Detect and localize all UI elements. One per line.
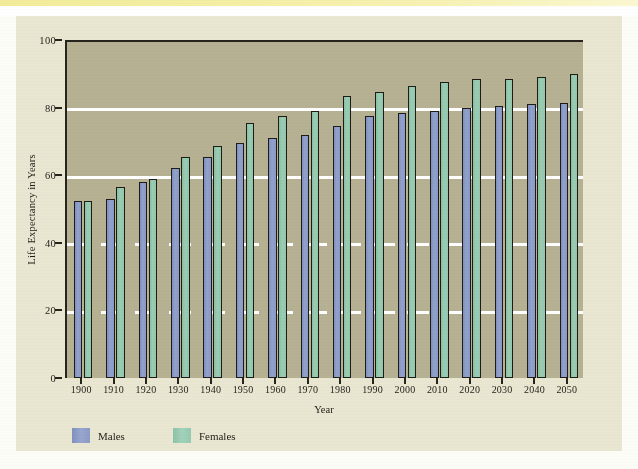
x-tick-label-1900: 1900 — [71, 384, 92, 395]
bar-females-1920 — [149, 179, 158, 378]
bar-group — [268, 42, 287, 378]
bar-females-1930 — [181, 157, 190, 378]
bar-females-1960 — [278, 116, 287, 378]
y-tick-mark-80 — [55, 107, 62, 109]
x-tick-label-2010: 2010 — [427, 384, 448, 395]
legend-label-females: Females — [199, 430, 236, 442]
bar-males-2050 — [560, 103, 569, 378]
bar-males-1940 — [203, 157, 212, 378]
bar-males-1900 — [74, 201, 83, 378]
bar-males-2000 — [398, 113, 407, 378]
x-tick-label-1980: 1980 — [330, 384, 351, 395]
bar-group — [301, 42, 320, 378]
bar-group — [430, 42, 449, 378]
bar-females-2020 — [472, 79, 481, 378]
legend: Males Females — [72, 428, 236, 443]
figure-root: Life Expectancy in Years 020406080100 19… — [0, 0, 638, 469]
x-tick-label-1910: 1910 — [103, 384, 124, 395]
x-tick-label-1990: 1990 — [362, 384, 383, 395]
bar-groups — [67, 42, 583, 378]
x-tick-label-2040: 2040 — [524, 384, 545, 395]
x-axis-tick-labels: 1900191019201930194019501960197019801990… — [65, 384, 583, 400]
x-tick-label-1930: 1930 — [168, 384, 189, 395]
y-tick-mark-20 — [55, 309, 62, 311]
bar-females-2050 — [570, 74, 579, 378]
y-tick-mark-40 — [55, 242, 62, 244]
bar-group — [236, 42, 255, 378]
bar-males-1920 — [139, 182, 148, 378]
x-tick-label-2030: 2030 — [492, 384, 513, 395]
x-tick-label-1920: 1920 — [136, 384, 157, 395]
bar-females-2040 — [537, 77, 546, 378]
x-tick-label-2050: 2050 — [556, 384, 577, 395]
bar-males-2010 — [430, 111, 439, 378]
bar-group — [527, 42, 546, 378]
bar-females-2010 — [440, 82, 449, 378]
bar-females-1910 — [116, 187, 125, 378]
x-tick-label-1970: 1970 — [297, 384, 318, 395]
x-tick-label-1950: 1950 — [233, 384, 254, 395]
bar-group — [462, 42, 481, 378]
y-tick-mark-0 — [55, 377, 62, 379]
bar-males-2030 — [495, 106, 504, 378]
y-tick-mark-60 — [55, 174, 62, 176]
bar-group — [333, 42, 352, 378]
bar-females-2000 — [408, 86, 417, 378]
bar-females-1970 — [311, 111, 320, 378]
bar-males-1990 — [365, 116, 374, 378]
bar-group — [139, 42, 158, 378]
bar-females-1940 — [213, 146, 222, 378]
bar-group — [495, 42, 514, 378]
bar-males-2020 — [462, 108, 471, 378]
legend-item-females: Females — [173, 428, 236, 443]
plot-frame — [65, 40, 583, 378]
bar-males-1970 — [301, 135, 310, 378]
plot-area — [67, 42, 583, 378]
bar-group — [171, 42, 190, 378]
legend-item-males: Males — [72, 428, 125, 443]
x-tick-label-1940: 1940 — [200, 384, 221, 395]
bar-males-1980 — [333, 126, 342, 378]
page-white-margin — [0, 6, 638, 16]
y-tick-label-100: 100 — [39, 35, 56, 46]
x-tick-label-2000: 2000 — [395, 384, 416, 395]
legend-swatch-females-icon — [173, 428, 191, 443]
x-tick-label-2020: 2020 — [459, 384, 480, 395]
bar-females-1980 — [343, 96, 352, 378]
bar-females-1990 — [375, 92, 384, 378]
bar-females-2030 — [505, 79, 514, 378]
legend-label-males: Males — [98, 430, 125, 442]
bar-group — [560, 42, 579, 378]
bar-group — [203, 42, 222, 378]
x-axis-title: Year — [65, 404, 583, 415]
bar-females-1900 — [84, 201, 93, 378]
y-axis-tick-labels: 020406080100 — [0, 40, 62, 378]
bar-males-1910 — [106, 199, 115, 378]
y-tick-mark-100 — [55, 39, 62, 41]
bar-group — [398, 42, 417, 378]
x-tick-label-1960: 1960 — [265, 384, 286, 395]
bar-males-1950 — [236, 143, 245, 378]
legend-swatch-males-icon — [72, 428, 90, 443]
bar-males-1960 — [268, 138, 277, 378]
bar-females-1950 — [246, 123, 255, 378]
bar-group — [74, 42, 93, 378]
bar-males-1930 — [171, 168, 180, 378]
bar-group — [365, 42, 384, 378]
bar-group — [106, 42, 125, 378]
bar-males-2040 — [527, 104, 536, 378]
